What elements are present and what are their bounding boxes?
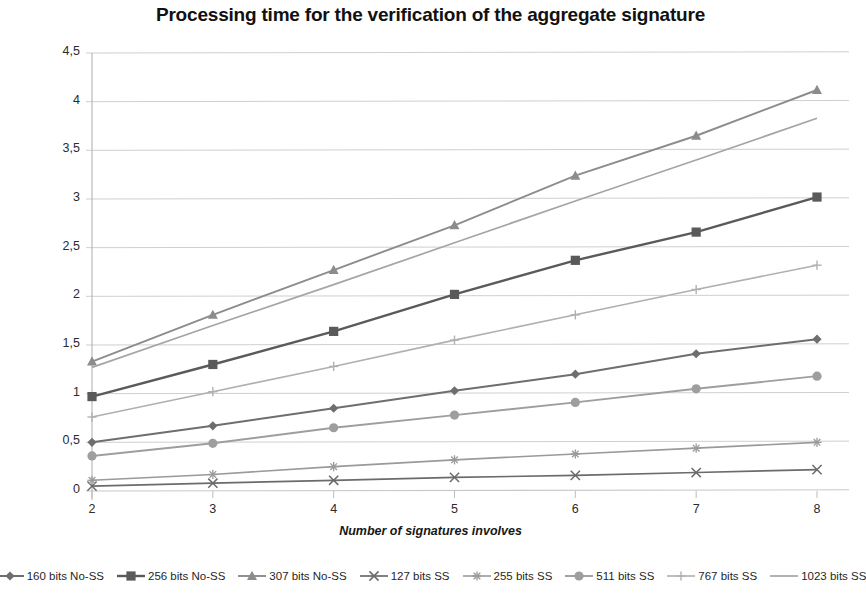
data-point-diamond bbox=[450, 386, 459, 395]
data-point-square bbox=[126, 571, 135, 580]
data-point-plus bbox=[450, 336, 459, 345]
data-point-plus bbox=[87, 412, 96, 421]
legend-marker-circle-icon bbox=[564, 569, 594, 583]
legend-marker-x-icon bbox=[359, 569, 389, 583]
data-point-square bbox=[208, 360, 217, 369]
legend-item[interactable]: 127 bits SS bbox=[359, 569, 450, 583]
x-tick-label: 6 bbox=[555, 502, 595, 516]
chart-legend: 160 bits No-SS256 bits No-SS307 bits No-… bbox=[0, 562, 861, 590]
x-tick-label: 2 bbox=[72, 502, 112, 516]
y-tick-label: 2,5 bbox=[40, 239, 80, 253]
series-7 bbox=[92, 118, 817, 367]
legend-label: 511 bits SS bbox=[596, 570, 654, 582]
series-0 bbox=[87, 335, 821, 447]
legend-label: 256 bits No-SS bbox=[148, 570, 225, 582]
data-point-square bbox=[812, 192, 821, 201]
legend-marker-plus-icon bbox=[666, 569, 696, 583]
legend-item[interactable]: 511 bits SS bbox=[564, 569, 654, 583]
data-point-diamond bbox=[5, 571, 14, 580]
y-tick-label: 1,5 bbox=[40, 336, 80, 350]
x-tick-label: 8 bbox=[797, 502, 837, 516]
data-point-square bbox=[571, 256, 580, 265]
legend-marker-square-icon bbox=[116, 569, 146, 583]
y-tick-label: 4 bbox=[40, 93, 80, 107]
x-axis-title: Number of signatures involves bbox=[0, 524, 861, 538]
y-tick-label: 4,5 bbox=[40, 44, 80, 58]
data-point-star bbox=[571, 449, 580, 458]
data-point-square bbox=[87, 392, 96, 401]
series-line bbox=[92, 118, 817, 367]
data-point-star bbox=[208, 470, 217, 479]
gridlines bbox=[86, 52, 849, 491]
legend-label: 1023 bits SS bbox=[801, 570, 866, 582]
data-point-star bbox=[87, 476, 96, 485]
x-tick-label: 4 bbox=[314, 502, 354, 516]
data-point-circle bbox=[329, 423, 338, 432]
legend-label: 160 bits No-SS bbox=[27, 570, 104, 582]
x-tick-label: 7 bbox=[676, 502, 716, 516]
legend-marker-triangle-icon bbox=[237, 569, 267, 583]
data-point-plus bbox=[329, 362, 338, 371]
legend-label: 307 bits No-SS bbox=[269, 570, 346, 582]
data-point-circle bbox=[692, 384, 701, 393]
data-point-diamond bbox=[329, 404, 338, 413]
data-point-square bbox=[450, 290, 459, 299]
data-point-triangle bbox=[812, 85, 822, 94]
legend-marker-none-icon bbox=[769, 569, 799, 583]
x-tick-label: 3 bbox=[193, 502, 233, 516]
data-point-square bbox=[692, 227, 701, 236]
data-point-diamond bbox=[208, 421, 217, 430]
data-point-plus bbox=[812, 261, 821, 270]
data-point-star bbox=[812, 438, 821, 447]
data-point-plus bbox=[692, 285, 701, 294]
legend-item[interactable]: 256 bits No-SS bbox=[116, 569, 225, 583]
y-tick-label: 0 bbox=[40, 482, 80, 496]
data-point-star bbox=[329, 462, 338, 471]
data-point-diamond bbox=[692, 349, 701, 358]
legend-item[interactable]: 767 bits SS bbox=[666, 569, 757, 583]
legend-item[interactable]: 160 bits No-SS bbox=[0, 569, 104, 583]
data-point-plus bbox=[677, 571, 686, 580]
legend-label: 127 bits SS bbox=[391, 570, 450, 582]
data-point-plus bbox=[208, 387, 217, 396]
data-point-diamond bbox=[571, 370, 580, 379]
data-point-circle bbox=[208, 439, 217, 448]
legend-label: 767 bits SS bbox=[698, 570, 757, 582]
y-tick-label: 3 bbox=[40, 190, 80, 204]
data-point-plus bbox=[571, 310, 580, 319]
series-3 bbox=[87, 465, 821, 491]
y-tick-label: 3,5 bbox=[40, 141, 80, 155]
y-tick-label: 1 bbox=[40, 385, 80, 399]
data-point-diamond bbox=[812, 335, 821, 344]
data-point-circle bbox=[450, 410, 459, 419]
data-point-diamond bbox=[87, 438, 96, 447]
series-6 bbox=[87, 261, 821, 422]
data-point-circle bbox=[87, 451, 96, 460]
series-2 bbox=[87, 85, 822, 366]
chart-title: Processing time for the verification of … bbox=[0, 4, 861, 26]
legend-marker-star-icon bbox=[462, 569, 492, 583]
legend-item[interactable]: 255 bits SS bbox=[462, 569, 553, 583]
data-point-star bbox=[472, 571, 481, 580]
legend-item[interactable]: 1023 bits SS bbox=[769, 569, 866, 583]
legend-item[interactable]: 307 bits No-SS bbox=[237, 569, 346, 583]
y-tick-label: 2 bbox=[40, 287, 80, 301]
legend-marker-diamond-icon bbox=[0, 569, 25, 583]
x-tick-label: 5 bbox=[435, 502, 475, 516]
data-point-circle bbox=[575, 571, 584, 580]
data-point-star bbox=[450, 455, 459, 464]
data-point-star bbox=[692, 444, 701, 453]
data-point-circle bbox=[571, 398, 580, 407]
legend-label: 255 bits SS bbox=[494, 570, 553, 582]
data-point-square bbox=[329, 327, 338, 336]
y-tick-label: 0,5 bbox=[40, 433, 80, 447]
data-point-circle bbox=[812, 372, 821, 381]
